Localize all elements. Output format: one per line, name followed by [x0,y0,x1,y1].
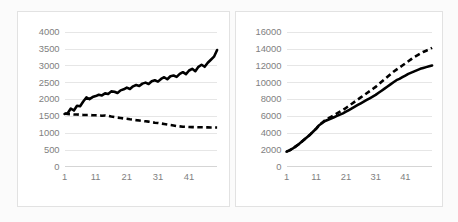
x-axis-tick-label: 1 [62,171,67,182]
series-line-dashed-series [65,114,218,128]
chart-right-plot: 0200040006000800010000120001400016000111… [236,12,442,206]
y-axis-tick-label: 3500 [39,43,60,54]
y-axis-tick-label: 6000 [261,110,282,121]
series-line-solid-series [287,65,433,151]
y-axis-tick-label: 1500 [39,110,60,121]
x-axis-tick-label: 21 [122,171,132,182]
chart-left-plot: 0500100015002000250030003500400011121314… [18,12,229,206]
y-axis-tick-label: 2000 [39,93,60,104]
chart-right-container[interactable]: 0200040006000800010000120001400016000111… [235,11,443,207]
y-axis-tick-label: 8000 [261,93,282,104]
x-axis-tick-label: 31 [370,171,380,182]
y-axis-tick-label: 3000 [39,60,60,71]
x-axis-tick-label: 41 [400,171,410,182]
y-axis-tick-label: 500 [44,144,60,155]
y-axis-tick-label: 0 [276,161,281,172]
y-axis-tick-label: 16000 [255,26,281,37]
x-axis-tick-label: 11 [91,171,101,182]
y-axis-tick-label: 2000 [261,144,282,155]
y-axis-tick-label: 10000 [255,77,281,88]
y-axis-tick-label: 1000 [39,127,60,138]
x-axis-tick-label: 11 [311,171,321,182]
chart-left-container[interactable]: 0500100015002000250030003500400011121314… [17,11,230,207]
series-line-solid-series [65,50,218,114]
y-axis-tick-label: 4000 [261,127,282,138]
y-axis-tick-label: 0 [54,161,59,172]
y-axis-tick-label: 12000 [255,60,281,71]
y-axis-tick-label: 14000 [255,43,281,54]
x-axis-tick-label: 41 [184,171,194,182]
x-axis-tick-label: 1 [284,171,289,182]
charts-page: 0500100015002000250030003500400011121314… [0,0,458,222]
y-axis-tick-label: 4000 [39,26,60,37]
y-axis-tick-label: 2500 [39,77,60,88]
x-axis-tick-label: 21 [341,171,351,182]
x-axis-tick-label: 31 [153,171,163,182]
